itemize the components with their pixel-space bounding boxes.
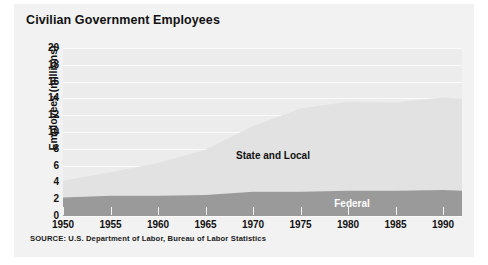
x-axis-tick-mark bbox=[63, 207, 64, 215]
y-axis-tick-label: 4 bbox=[19, 177, 59, 187]
x-axis-tick-mark bbox=[396, 207, 397, 215]
y-axis-tick-label: 18 bbox=[19, 60, 59, 70]
x-axis-tick-label: 1965 bbox=[194, 219, 216, 230]
x-axis-tick-label: 1955 bbox=[99, 219, 121, 230]
x-axis-tick-mark bbox=[348, 207, 349, 215]
plot-area bbox=[63, 48, 462, 216]
x-axis-tick-mark bbox=[206, 207, 207, 215]
x-axis-tick-mark bbox=[443, 207, 444, 215]
x-axis-tick-mark bbox=[301, 207, 302, 215]
y-axis-ticks: 02468101214161820 bbox=[15, 48, 59, 216]
y-axis-tick-label: 10 bbox=[19, 127, 59, 137]
x-axis-tick-label: 1980 bbox=[337, 219, 359, 230]
x-axis-tick-label: 1970 bbox=[242, 219, 264, 230]
y-axis-tick-label: 16 bbox=[19, 77, 59, 87]
x-axis-tick-label: 1975 bbox=[289, 219, 311, 230]
y-axis-tick-label: 20 bbox=[19, 43, 59, 53]
y-axis-tick-label: 2 bbox=[19, 194, 59, 204]
x-axis-tick-mark bbox=[253, 207, 254, 215]
series-layer bbox=[63, 48, 462, 216]
x-axis-tick-mark bbox=[158, 207, 159, 215]
series-label-state-and-local: State and Local bbox=[236, 150, 310, 161]
y-axis-tick-label: 6 bbox=[19, 161, 59, 171]
chart-figure: Civilian Government Employees Employees … bbox=[0, 0, 488, 265]
x-axis-tick-label: 1985 bbox=[384, 219, 406, 230]
series-label-federal: Federal bbox=[334, 198, 370, 209]
x-axis-tick-label: 1990 bbox=[432, 219, 454, 230]
y-axis-tick-label: 12 bbox=[19, 110, 59, 120]
x-axis-tick-label: 1960 bbox=[147, 219, 169, 230]
source-note: SOURCE: U.S. Department of Labor, Bureau… bbox=[30, 234, 266, 243]
y-axis-tick-label: 14 bbox=[19, 93, 59, 103]
x-axis-tick-mark bbox=[111, 207, 112, 215]
x-axis-tick-label: 1950 bbox=[52, 219, 74, 230]
y-axis-tick-label: 8 bbox=[19, 144, 59, 154]
area-state-and-local bbox=[63, 98, 462, 198]
